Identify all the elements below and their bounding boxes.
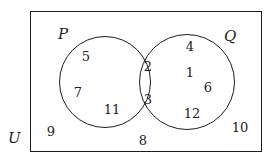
venn-element-outside: 10 (232, 121, 249, 134)
venn-element-q_only: 4 (186, 40, 194, 53)
venn-element-intersection: 2 (144, 60, 152, 73)
venn-element-q_only: 6 (204, 81, 212, 94)
venn-element-p_only: 5 (82, 50, 90, 63)
set-label-q: Q (224, 29, 236, 44)
venn-element-q_only: 12 (184, 107, 201, 120)
venn-element-outside: 9 (47, 125, 55, 138)
venn-element-q_only: 1 (186, 66, 194, 79)
venn-element-p_only: 7 (74, 86, 82, 99)
venn-diagram: P Q U 571123416129810 (0, 0, 278, 161)
venn-element-intersection: 3 (144, 93, 152, 106)
venn-element-outside: 8 (139, 134, 147, 147)
set-label-universal: U (8, 131, 21, 146)
venn-element-p_only: 11 (104, 103, 121, 116)
set-label-p: P (58, 27, 68, 42)
